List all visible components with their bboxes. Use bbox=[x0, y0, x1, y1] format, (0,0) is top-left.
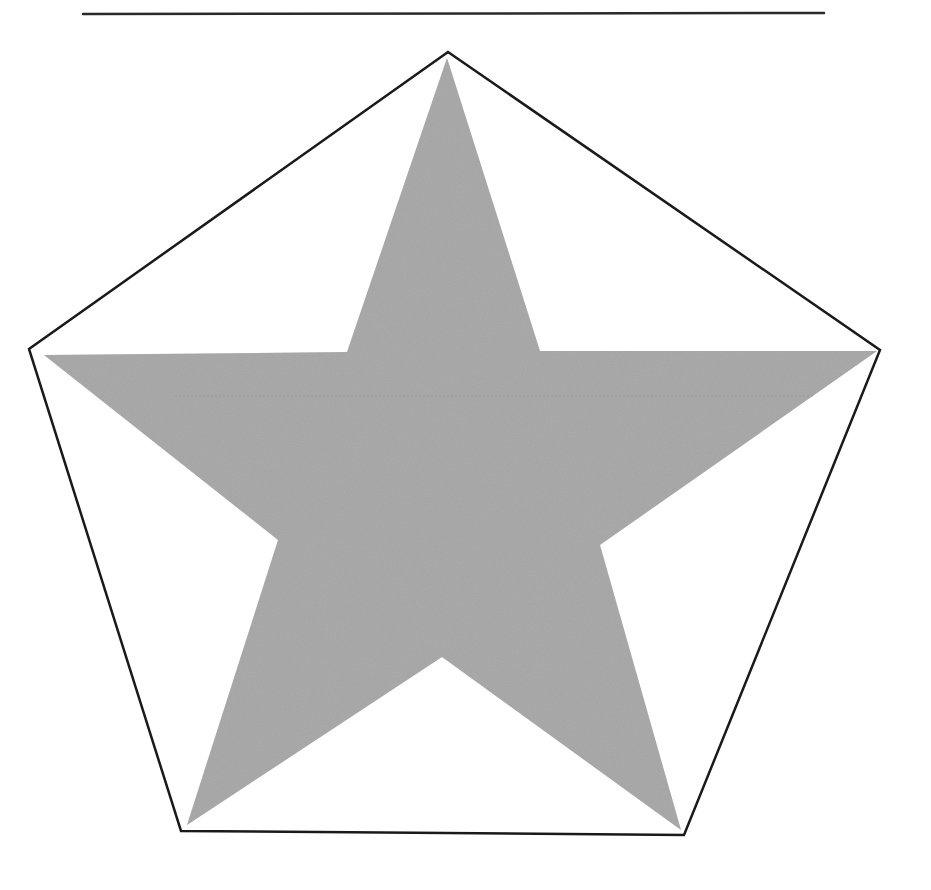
five-point-star bbox=[44, 58, 877, 830]
header-rule bbox=[83, 13, 824, 14]
